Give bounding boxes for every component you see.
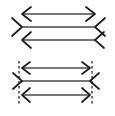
inward-fin-line-left-cap <box>12 18 22 36</box>
muller-lyer-diagram <box>0 0 115 116</box>
shaft-layer <box>22 14 95 95</box>
inward-fin-line-left-cap <box>13 73 22 89</box>
fin-layer <box>12 7 105 102</box>
figure-canvas <box>0 0 115 116</box>
